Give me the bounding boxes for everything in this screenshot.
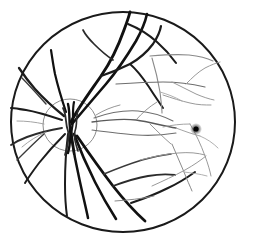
macula-layer <box>190 123 202 135</box>
fundus-canvas <box>0 0 254 246</box>
fundus-diagram <box>0 0 254 246</box>
macula-fovea-spot <box>193 126 198 131</box>
